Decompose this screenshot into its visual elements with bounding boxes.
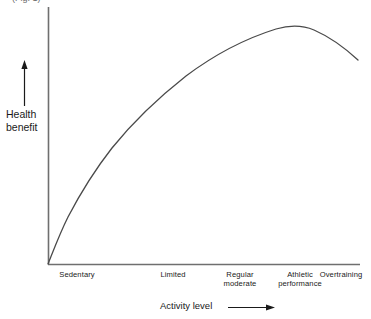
x-axis-title: Activity level (160, 300, 212, 312)
right-arrow-icon (228, 304, 275, 310)
up-arrow-icon (21, 60, 27, 106)
health-benefit-curve (48, 26, 358, 264)
x-tick-label-limited: Limited (138, 270, 208, 279)
figure-root: (Fig. 1) Health benefit Sedentary Limite… (0, 0, 371, 319)
x-tick-label-sedentary: Sedentary (42, 270, 112, 279)
x-tick-label-overtraining: Overtraining (306, 270, 371, 279)
y-axis-title: Health benefit (6, 108, 60, 133)
